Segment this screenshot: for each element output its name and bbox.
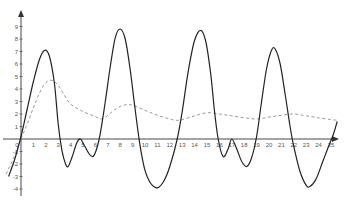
x-axis: 0123456789101112131415161718192021222324… xyxy=(3,136,339,148)
y-tick-label: 4 xyxy=(15,86,19,92)
y-tick-label: 6 xyxy=(15,61,19,67)
x-tick-label: 20 xyxy=(266,142,273,148)
y-tick-label: 8 xyxy=(15,36,19,42)
x-tick-label: 12 xyxy=(166,142,173,148)
x-tick-label: 13 xyxy=(179,142,186,148)
y-axis-arrow-icon xyxy=(18,10,24,17)
x-tick-label: 11 xyxy=(154,142,161,148)
x-tick-label: 21 xyxy=(278,142,285,148)
y-tick-label: 2 xyxy=(15,111,19,117)
x-tick-label: 3 xyxy=(57,142,61,148)
y-tick-label: 9 xyxy=(15,24,19,30)
x-tick-label: 15 xyxy=(204,142,211,148)
x-tick-label: 10 xyxy=(142,142,149,148)
x-tick-label: 8 xyxy=(119,142,123,148)
x-tick-label: 4 xyxy=(69,142,73,148)
x-tick-label: 23 xyxy=(303,142,310,148)
x-tick-label: 7 xyxy=(106,142,110,148)
series-solid-line xyxy=(9,29,338,188)
x-tick-label: 1 xyxy=(32,142,36,148)
series-layer xyxy=(6,29,337,188)
y-tick-label: 3 xyxy=(15,99,19,105)
y-tick-label: -4 xyxy=(13,186,19,192)
x-tick-label: 18 xyxy=(241,142,248,148)
x-tick-label: 24 xyxy=(315,142,322,148)
x-tick-label: 14 xyxy=(191,142,198,148)
x-tick-label: 9 xyxy=(131,142,135,148)
y-axis: -4-3-2-1123456789 xyxy=(13,10,24,196)
y-tick-label: 7 xyxy=(15,49,19,55)
x-tick-label: 2 xyxy=(44,142,48,148)
line-chart: -4-3-2-1123456789 0123456789101112131415… xyxy=(0,0,348,206)
y-tick-label: 5 xyxy=(15,74,19,80)
y-tick-label: -3 xyxy=(13,174,19,180)
y-tick-label: 1 xyxy=(15,124,19,130)
